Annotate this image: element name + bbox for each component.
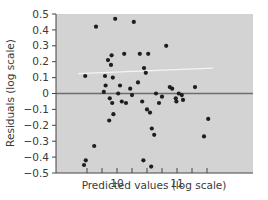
x-axis-title: Predicted values (log scale) [82,179,227,191]
data-point [124,101,128,105]
data-point [150,126,154,130]
data-point [180,93,184,97]
data-point [145,107,149,111]
data-point [103,74,107,78]
data-point [164,44,168,48]
data-point [154,91,158,95]
data-point [144,71,148,75]
data-point [107,118,111,122]
data-point [138,52,142,56]
data-point [118,83,122,87]
data-point [83,74,87,78]
data-point [174,99,178,103]
y-tick-label: 0.1 [32,71,49,83]
data-point [136,80,140,84]
data-point [82,163,86,167]
data-point [148,111,152,115]
data-point [111,76,115,80]
y-tick-label: −0.4 [24,151,50,163]
data-point [110,53,114,57]
data-point [146,52,150,56]
data-point [193,85,197,89]
y-tick-label: 0.4 [32,24,49,36]
data-point [130,93,134,97]
data-point [149,165,153,169]
data-point [157,101,161,105]
data-point [109,63,113,67]
data-point [120,99,124,103]
data-point [160,95,164,99]
y-tick-label: −0.2 [24,119,50,131]
scatter-chart: −0.5−0.4−0.3−0.2−0.100.10.20.30.40.5 101… [0,0,268,200]
data-point [140,99,144,103]
y-tick-label: 0.2 [32,55,49,67]
y-axis-ticks: −0.5−0.4−0.3−0.2−0.100.10.20.30.40.5 [24,8,57,179]
data-point [92,144,96,148]
y-tick-label: −0.5 [24,167,50,179]
data-point [122,52,126,56]
data-point [110,101,114,105]
data-point [113,17,117,21]
y-tick-label: −0.1 [24,103,50,115]
data-point [108,96,112,100]
data-point [142,66,146,70]
data-point [111,112,115,116]
y-tick-label: −0.3 [24,135,50,147]
data-point [84,158,88,162]
data-point [94,25,98,29]
data-point [170,87,174,91]
data-point [132,20,136,24]
y-tick-label: 0.5 [32,8,49,20]
data-point [181,98,185,102]
y-tick-label: 0 [42,87,49,99]
data-point [102,90,106,94]
data-point [106,58,110,62]
data-point [104,83,108,87]
data-point [152,133,156,137]
data-point [128,87,132,91]
data-point [116,91,120,95]
data-point [206,117,210,121]
data-point [141,158,145,162]
data-point [202,134,206,138]
y-axis-title: Residuals (log scale) [4,39,16,147]
y-tick-label: 0.3 [32,39,49,51]
